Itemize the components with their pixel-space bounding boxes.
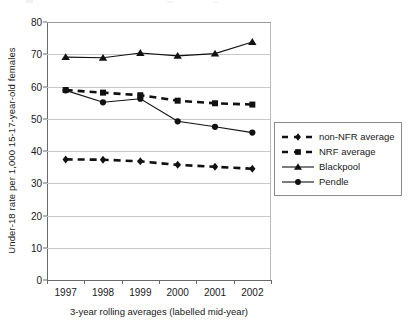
y-tick-label-70: 70 — [31, 49, 42, 60]
x-tick-label-2000: 2000 — [167, 287, 189, 298]
data-point — [100, 90, 106, 96]
chart-legend: non-NFR averageNRF averageBlackpoolPendl… — [274, 122, 402, 196]
x-tick-mark-4 — [196, 280, 197, 284]
x-tick-label-2001: 2001 — [204, 287, 226, 298]
data-point — [212, 124, 218, 130]
legend-label: Blackpool — [319, 161, 360, 172]
data-point — [249, 165, 255, 173]
data-point — [175, 161, 181, 169]
data-point — [100, 156, 106, 164]
data-point — [175, 118, 181, 124]
data-point — [63, 155, 69, 163]
y-tick-label-50: 50 — [31, 113, 42, 124]
data-point — [212, 100, 218, 106]
series-non-nfr-average — [63, 155, 256, 172]
x-tick-label-1997: 1997 — [55, 287, 77, 298]
legend-label: NRF average — [319, 146, 376, 157]
y-tick-label-80: 80 — [31, 17, 42, 28]
data-point — [137, 96, 143, 102]
top-edge-artifact — [26, 0, 33, 3]
legend-item-pendle: Pendle — [281, 174, 396, 189]
data-point — [136, 49, 144, 56]
y-tick-label-0: 0 — [36, 275, 42, 286]
x-tick-mark-3 — [159, 280, 160, 284]
series-line — [66, 159, 253, 168]
series-pendle — [63, 87, 256, 135]
data-point — [248, 38, 256, 45]
y-axis-title: Under-18 rate per 1,000 15-17-year-old f… — [0, 0, 22, 300]
y-tick-label-10: 10 — [31, 242, 42, 253]
x-tick-mark-5 — [234, 280, 235, 284]
data-point — [137, 157, 143, 165]
legend-item-blackpool: Blackpool — [281, 159, 396, 174]
data-point — [100, 99, 106, 105]
data-point — [212, 163, 218, 171]
chart-figure: Under-18 rate per 1,000 15-17-year-old f… — [0, 0, 409, 327]
y-tick-label-30: 30 — [31, 178, 42, 189]
data-point — [63, 87, 69, 93]
x-tick-mark-6 — [271, 280, 272, 284]
data-point — [175, 98, 181, 104]
x-tick-label-1998: 1998 — [92, 287, 114, 298]
top-edge-artifact-3 — [213, 1, 218, 3]
plot-area: 01020304050607080 1997199819992000200120… — [47, 22, 271, 280]
data-point — [249, 102, 255, 108]
legend-label: non-NFR average — [319, 131, 395, 142]
x-tick-label-2002: 2002 — [241, 287, 263, 298]
series-layer — [47, 22, 271, 280]
y-tick-label-20: 20 — [31, 210, 42, 221]
x-tick-mark-0 — [47, 280, 48, 284]
legend-swatch-circle-icon — [281, 175, 315, 189]
legend-item-nrf-average: NRF average — [281, 144, 396, 159]
x-axis-title: 3-year rolling averages (labelled mid-ye… — [47, 306, 271, 317]
y-tick-label-60: 60 — [31, 81, 42, 92]
legend-swatch-square-icon — [281, 145, 315, 159]
series-nrf-average — [63, 87, 256, 108]
x-tick-label-1999: 1999 — [129, 287, 151, 298]
series-line — [66, 90, 253, 105]
y-axis-title-text: Under-18 rate per 1,000 15-17-year-old f… — [6, 47, 17, 253]
legend-label: Pendle — [319, 176, 349, 187]
series-line — [66, 42, 253, 58]
x-tick-mark-1 — [84, 280, 85, 284]
x-tick-mark-2 — [122, 280, 123, 284]
legend-swatch-triangle-icon — [281, 160, 315, 174]
y-tick-label-40: 40 — [31, 146, 42, 157]
legend-item-non-nfr-average: non-NFR average — [281, 129, 396, 144]
series-blackpool — [61, 38, 256, 61]
top-edge-artifact-2 — [167, 1, 173, 3]
series-line — [66, 90, 253, 132]
data-point — [249, 130, 255, 136]
legend-swatch-diamond-icon — [281, 130, 315, 144]
